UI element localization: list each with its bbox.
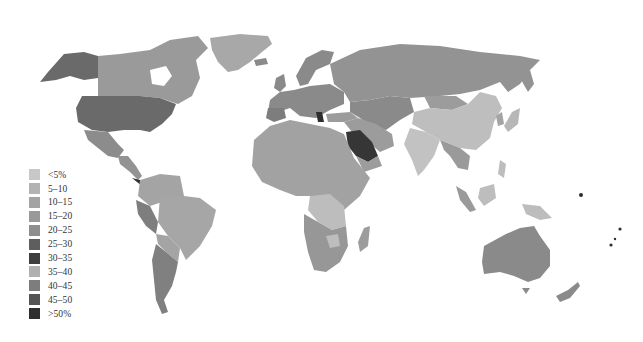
legend-label: 20–25	[48, 225, 72, 235]
legend-swatch	[29, 211, 40, 222]
map-legend: <5%5–1010–1515–2020–2525–3030–3535–4040–…	[29, 168, 72, 321]
legend-label: >50%	[48, 309, 71, 319]
legend-item: 25–30	[29, 237, 72, 250]
legend-swatch	[29, 169, 40, 180]
region-borneo	[478, 184, 496, 206]
legend-swatch	[29, 308, 40, 319]
legend-label: 15–20	[48, 211, 72, 221]
region-uk	[274, 74, 286, 92]
legend-swatch	[29, 197, 40, 208]
region-iceland	[254, 58, 268, 66]
legend-item: 45–50	[29, 293, 72, 306]
region-spain	[266, 108, 286, 122]
pacific-island-4	[614, 238, 616, 240]
legend-label: 30–35	[48, 253, 72, 263]
pacific-island-2	[618, 227, 621, 230]
region-australia	[482, 226, 550, 282]
region-usa	[76, 96, 176, 132]
legend-item: 10–15	[29, 196, 72, 209]
legend-item: 15–20	[29, 210, 72, 223]
legend-label: 45–50	[48, 295, 72, 305]
region-madagascar	[358, 226, 370, 252]
legend-item: >50%	[29, 307, 72, 320]
region-alaska	[40, 52, 98, 82]
legend-item: 20–25	[29, 224, 72, 237]
legend-item: 5–10	[29, 182, 72, 195]
region-philippines	[498, 160, 506, 178]
legend-label: 25–30	[48, 239, 72, 249]
region-mexico	[84, 130, 124, 158]
region-new-guinea	[522, 204, 552, 220]
legend-label: <5%	[48, 170, 66, 180]
pacific-island-1	[579, 193, 583, 197]
legend-swatch	[29, 280, 40, 291]
legend-item: 40–45	[29, 279, 72, 292]
world-map	[0, 0, 643, 342]
legend-swatch	[29, 253, 40, 264]
region-peru	[136, 200, 158, 234]
legend-label: 35–40	[48, 267, 72, 277]
legend-label: 10–15	[48, 197, 72, 207]
legend-label: 5–10	[48, 184, 67, 194]
region-central-america	[118, 156, 142, 180]
region-greenland	[210, 34, 272, 72]
legend-item: 35–40	[29, 265, 72, 278]
region-japan	[504, 108, 520, 132]
region-russia	[330, 44, 540, 102]
legend-swatch	[29, 183, 40, 194]
region-sumatra	[456, 186, 476, 212]
region-new-zealand	[556, 282, 580, 302]
region-tasmania	[522, 288, 530, 294]
legend-label: 40–45	[48, 281, 72, 291]
region-scandinavia	[296, 50, 334, 86]
pacific-island-3	[609, 243, 612, 246]
legend-item: 30–35	[29, 251, 72, 264]
legend-item: <5%	[29, 168, 72, 181]
legend-swatch	[29, 266, 40, 277]
legend-swatch	[29, 225, 40, 236]
legend-swatch	[29, 239, 40, 250]
legend-swatch	[29, 294, 40, 305]
